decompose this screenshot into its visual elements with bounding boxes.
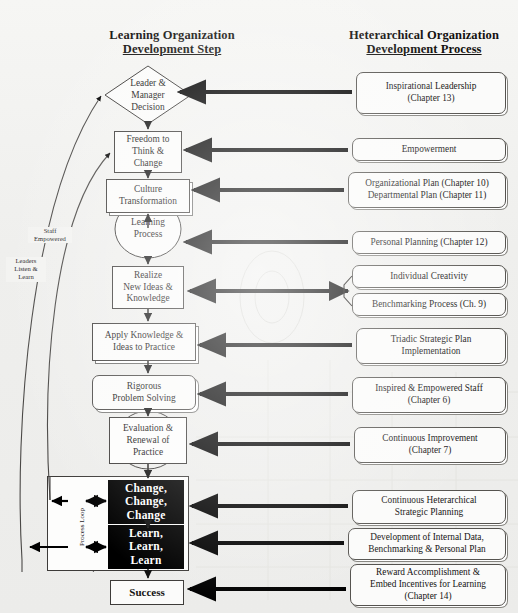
annotation-line: Listen & — [7, 265, 45, 273]
annotation-process-loop: Process Loop — [78, 508, 86, 546]
annotation-line: Staff — [29, 227, 71, 235]
annotation-line: Empowered — [29, 235, 71, 243]
feedback-leaders-listen-learn — [20, 96, 101, 560]
feedback-staff-empowered — [48, 153, 110, 500]
diagram-canvas: Learning Organization Development Step H… — [0, 0, 518, 613]
annotation-line: Leaders — [7, 257, 45, 265]
annotation-staff-empowered: Staff Empowered — [28, 227, 72, 243]
annotation-line: Learn — [7, 273, 45, 281]
annotation-leaders-listen-learn: Leaders Listen & Learn — [6, 257, 46, 282]
